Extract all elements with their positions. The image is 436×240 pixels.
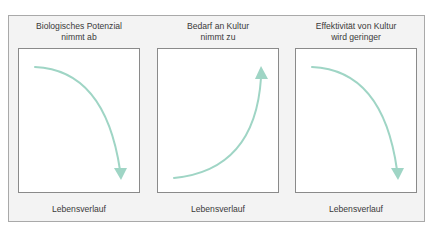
panel-2-title: Bedarf an Kultur nimmt zu — [157, 21, 279, 43]
panel-1-title: Biologisches Potenzial nimmt ab — [18, 21, 140, 43]
panel-2-title-line1: Bedarf an Kultur — [157, 21, 279, 32]
panel-2-title-line2: nimmt zu — [157, 32, 279, 43]
panel-3-xlabel: Lebensverlauf — [295, 204, 417, 215]
panel-2-plot-area — [157, 48, 279, 193]
panel-1-title-line1: Biologisches Potenzial — [18, 21, 140, 32]
panel-3-plot-area — [295, 48, 417, 193]
panel-1-title-line2: nimmt ab — [18, 32, 140, 43]
panel-3-title-line1: Effektivität von Kultur — [295, 21, 417, 32]
panel-3-title-line2: wird geringer — [295, 32, 417, 43]
panel-1-xlabel: Lebensverlauf — [18, 204, 140, 215]
panel-1-plot-area — [18, 48, 140, 193]
panel-3-title: Effektivität von Kultur wird geringer — [295, 21, 417, 43]
panel-2-xlabel: Lebensverlauf — [157, 204, 279, 215]
